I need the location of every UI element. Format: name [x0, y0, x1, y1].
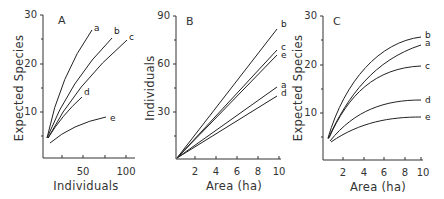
panel-c-label-a: a [425, 38, 431, 48]
panel-c-xtick-6: 6 [381, 167, 387, 178]
panel-c-ytick-20: 20 [304, 59, 317, 70]
panel-b-ytick-90: 90 [157, 10, 170, 21]
panel-a-label-c: c [129, 32, 134, 42]
panel-c-curve-d [330, 100, 421, 141]
panel-b-y-axis-title: Individuals [143, 55, 157, 120]
panel-b-xtick-2: 2 [192, 166, 198, 177]
panel-b-ytick-60: 60 [157, 58, 170, 69]
panel-b: 30 60 90 2 4 6 8 10 Area (ha) Individual… [143, 10, 287, 193]
panel-b-line-d [177, 96, 277, 158]
panel-c-ytick-10: 10 [304, 107, 317, 118]
panel-b-line-c [177, 50, 277, 158]
panel-c-label-e: e [425, 112, 431, 122]
panel-b-ytick-30: 30 [157, 106, 170, 117]
panel-b-xtick-8: 8 [255, 166, 261, 177]
panel-c-xtick-10: 10 [417, 167, 430, 178]
panel-b-line-b [177, 29, 277, 158]
panel-c-axes [323, 16, 423, 160]
panel-c-ytick-30: 30 [304, 10, 317, 21]
panel-a-label-d: d [84, 87, 90, 97]
panel-c-xtick-4: 4 [361, 167, 367, 178]
panel-a-xtick-100: 100 [116, 166, 135, 177]
panel-b-label-d: d [281, 88, 287, 98]
panel-a: 10 20 30 50 100 Individuals Expected Spe… [12, 9, 136, 193]
panel-b-line-a [177, 87, 277, 158]
panel-b-label-e: e [281, 50, 287, 60]
panel-a-xtick-50: 50 [77, 166, 90, 177]
panel-c-label-c: c [425, 61, 430, 71]
panel-c-y-axis-title: Expected Species [291, 35, 305, 141]
panel-a-ytick-10: 10 [24, 106, 37, 117]
panel-c-xtick-8: 8 [402, 167, 408, 178]
panel-a-y-axis-title: Expected Species [12, 35, 26, 141]
panel-b-line-e [177, 55, 277, 158]
panel-b-xtick-6: 6 [234, 166, 240, 177]
panel-c-curve-b [328, 37, 421, 138]
panel-b-axes [176, 16, 281, 159]
panel-c: 10 20 30 2 4 6 8 10 Area (ha) Expected S… [291, 10, 431, 194]
panel-c-curve-e [331, 117, 421, 142]
panel-a-curve-e [50, 117, 106, 143]
panel-b-label-b: b [281, 19, 287, 29]
panel-c-xtick-2: 2 [340, 167, 346, 178]
panel-a-x-axis-title: Individuals [53, 179, 118, 193]
panel-c-letter: C [333, 15, 341, 28]
figure: 10 20 30 50 100 Individuals Expected Spe… [0, 0, 444, 199]
panel-a-label-e: e [110, 113, 116, 123]
panel-a-label-b: b [114, 26, 120, 36]
panel-a-label-a: a [94, 23, 100, 33]
panel-b-xtick-4: 4 [213, 166, 219, 177]
panel-a-letter: A [58, 14, 66, 27]
panel-c-x-axis-title: Area (ha) [350, 180, 406, 194]
panel-a-ytick-20: 20 [24, 58, 37, 69]
panel-b-x-axis-title: Area (ha) [206, 179, 262, 193]
panel-b-xtick-10: 10 [273, 166, 286, 177]
panel-b-letter: B [186, 15, 194, 28]
panel-a-ytick-30: 30 [24, 9, 37, 20]
panel-c-label-d: d [425, 95, 431, 105]
